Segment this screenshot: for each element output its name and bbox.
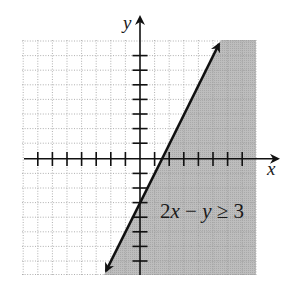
inequality-label: 2x − y ≥ 3	[160, 199, 244, 223]
solution-region	[104, 40, 256, 275]
x-axis-label: x	[266, 158, 276, 179]
y-axis-label: y	[121, 12, 132, 33]
inequality-graph: x y 2x − y ≥ 3	[0, 0, 290, 289]
